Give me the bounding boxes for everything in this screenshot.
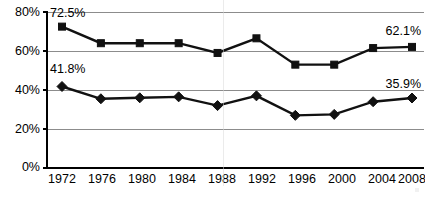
y-axis-label-0: 0% [22,160,40,174]
annotation-upper-start: 72.5% [50,6,85,20]
data-point-square [331,61,338,68]
x-axis-label-2000: 2000 [328,172,356,186]
chart-container: 80% 60% 40% 20% 0% 1972 1976 1980 1984 1… [0,0,425,207]
series-line-upper-series [62,27,412,65]
y-axis-label-20: 20% [15,122,40,136]
gridlines [47,12,424,129]
data-point-diamond [407,93,417,103]
y-axis-label-80: 80% [15,5,40,19]
data-point-diamond [251,91,261,101]
line-chart: 80% 60% 40% 20% 0% 1972 1976 1980 1984 1… [0,0,425,207]
series-line-lower-series [62,86,412,115]
data-point-diamond [329,109,339,119]
data-point-square [59,23,66,30]
y-axis-label-60: 60% [15,44,40,58]
x-axis-label-2008: 2008 [398,172,425,186]
data-point-diamond [368,97,378,107]
data-point-square [97,40,104,47]
data-point-square [253,35,260,42]
series-upper-series [59,23,416,68]
x-axis-label-2004: 2004 [368,172,396,186]
x-axis-label-1988: 1988 [208,172,236,186]
data-point-square [136,40,143,47]
data-point-square [409,43,416,50]
legend-caption-strip [0,197,425,207]
x-axis-label-1980: 1980 [128,172,156,186]
data-point-diamond [213,101,223,111]
annotation-lower-start: 41.8% [50,62,85,76]
annotation-lower-end: 35.9% [386,77,421,91]
data-point-diamond [96,94,106,104]
annotation-upper-end: 62.1% [386,24,421,38]
x-axis-label-1972: 1972 [48,172,76,186]
data-point-square [292,61,299,68]
series-lower-series [57,81,417,120]
x-axis-label-1996: 1996 [288,172,316,186]
data-point-diamond [174,92,184,102]
value-annotations: 72.5% 41.8% 62.1% 35.9% [50,6,421,91]
data-point-diamond [290,110,300,120]
y-axis-label-40: 40% [15,83,40,97]
data-point-square [175,40,182,47]
data-point-diamond [135,93,145,103]
data-point-square [370,45,377,52]
x-axis-label-1976: 1976 [88,172,116,186]
x-axis-label-1992: 1992 [248,172,276,186]
y-axis-labels: 80% 60% 40% 20% 0% [15,5,40,174]
x-axis-label-1984: 1984 [168,172,196,186]
data-point-square [214,49,221,56]
x-axis-labels: 1972 1976 1980 1984 1988 1992 1996 2000 … [48,172,425,186]
series-layer [57,23,417,120]
